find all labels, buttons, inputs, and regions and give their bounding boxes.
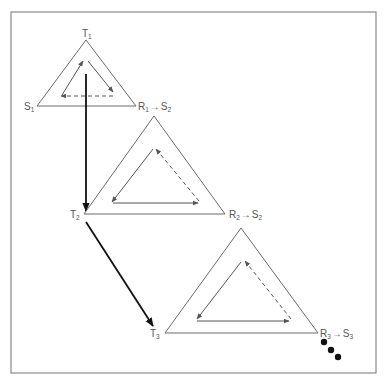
label-t3: T3 xyxy=(150,328,160,340)
diagram-frame xyxy=(11,12,376,373)
triangle-2-outline xyxy=(84,116,225,214)
triangle-3: T3 R3→S3 xyxy=(150,228,354,340)
triangle-cycle-diagram: T1 S1 R1→S2 T2 R2→S2 T3 R3→S3 xyxy=(0,0,384,385)
label-t1: T1 xyxy=(82,28,92,40)
triangle-1-left-arrow xyxy=(62,61,83,95)
ellipsis-dot-3 xyxy=(335,354,341,360)
ellipsis-dot-2 xyxy=(328,347,334,353)
transition-arrow-t2-t3 xyxy=(86,222,153,326)
label-t2: T2 xyxy=(70,209,80,221)
ellipsis-dot-1 xyxy=(321,339,327,345)
triangle-1-right-arrow xyxy=(88,61,113,92)
label-r2-to-s2: R2→S2 xyxy=(229,209,263,221)
triangle-1: T1 S1 R1→S2 xyxy=(24,28,172,113)
triangle-3-outline xyxy=(165,228,318,333)
label-r3-to-s3: R3→S3 xyxy=(320,328,354,340)
triangle-3-dashed-right-arrow xyxy=(245,261,291,319)
continuation-ellipsis xyxy=(321,339,341,360)
label-s1: S1 xyxy=(24,101,35,113)
triangle-2-left-arrow xyxy=(112,149,153,202)
triangle-2: T2 R2→S2 xyxy=(70,116,263,221)
triangle-3-left-arrow xyxy=(197,262,241,319)
label-r1-to-s2: R1→S2 xyxy=(138,101,172,113)
triangle-2-dashed-right-arrow xyxy=(156,149,199,201)
